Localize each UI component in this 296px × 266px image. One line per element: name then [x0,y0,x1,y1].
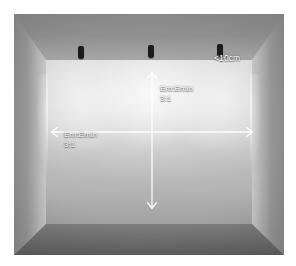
back-wall-surface [45,60,255,224]
wall-washer-center-icon [148,45,154,58]
wall-washer-right-icon [217,44,223,57]
wall-washer-left-icon [78,46,84,59]
room-illustration: Em:Emin 3:1 Em:Emin 3:1 <10cm [14,14,284,255]
floor-surface [14,224,284,255]
diagram-canvas: Em:Emin 3:1 Em:Emin 3:1 <10cm [0,0,296,266]
